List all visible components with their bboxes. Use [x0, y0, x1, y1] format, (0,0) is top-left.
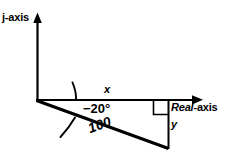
x-component-label: x — [104, 84, 110, 95]
real-axis-label-plain: -axis — [193, 101, 217, 113]
diagram-canvas — [0, 0, 229, 161]
angle-tick-lower-icon — [61, 118, 76, 138]
phasor-diagram: j-axis Real-axis x −20° 100 y — [0, 0, 229, 161]
right-angle-square-icon — [154, 101, 169, 115]
real-axis-label: Real-axis — [171, 102, 218, 113]
j-axis-arrowhead — [33, 13, 42, 24]
real-axis-label-italic: Real — [171, 101, 193, 113]
j-axis-label: j-axis — [2, 12, 29, 23]
y-component-label: y — [171, 119, 177, 130]
angle-tick-upper-icon — [73, 83, 77, 101]
